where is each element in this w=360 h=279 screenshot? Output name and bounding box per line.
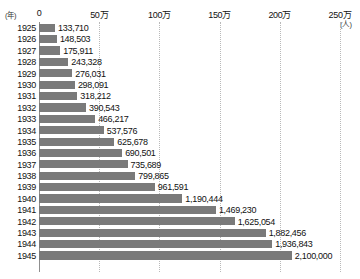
bar	[39, 206, 216, 214]
bar-row: 1925133,710	[0, 22, 360, 33]
plot-area: 1925133,7101926148,5031927175,9111928243…	[0, 22, 360, 274]
bar-value-label: 466,217	[98, 114, 128, 124]
bar-row: 1938799,865	[0, 170, 360, 181]
bar-value-label: 148,503	[60, 34, 90, 44]
bar-chart: (年) 050万100万150万200万250万 (人) 1925133,710…	[0, 0, 360, 279]
bar	[39, 69, 72, 77]
bar-value-label: 1,190,444	[185, 194, 222, 204]
x-tick-label-0: 0	[37, 8, 42, 18]
bar	[39, 58, 68, 66]
bar	[39, 240, 272, 248]
bar-row: 1933466,217	[0, 113, 360, 124]
bar-row: 19452,100,000	[0, 250, 360, 261]
bar-row-year: 1926	[2, 34, 36, 44]
bar-row-year: 1931	[2, 91, 36, 101]
bar-value-label: 276,031	[75, 69, 105, 79]
bar-row: 19421,625,054	[0, 216, 360, 227]
bar-row-year: 1944	[2, 239, 36, 249]
bar-row: 1927175,911	[0, 45, 360, 56]
year-axis-label: (年)	[5, 9, 16, 20]
bar	[39, 115, 95, 123]
bar	[39, 251, 292, 259]
bar-row: 1934537,576	[0, 125, 360, 136]
bar	[39, 81, 75, 89]
bar-row: 19411,469,230	[0, 204, 360, 215]
bar-row-year: 1934	[2, 126, 36, 136]
bar	[39, 183, 155, 191]
x-tick-label-500000: 50万	[90, 8, 108, 21]
bar-rows: 1925133,7101926148,5031927175,9111928243…	[0, 22, 360, 261]
bar	[39, 217, 235, 225]
bar-row-year: 1933	[2, 114, 36, 124]
bar-row: 1932390,543	[0, 102, 360, 113]
bar	[39, 160, 128, 168]
bar-row: 1936690,501	[0, 147, 360, 158]
bar-row-year: 1925	[2, 23, 36, 33]
bar-row-year: 1939	[2, 182, 36, 192]
bar	[39, 229, 266, 237]
bar	[39, 35, 57, 43]
bar-row-year: 1941	[2, 205, 36, 215]
bar-row: 1930298,091	[0, 79, 360, 90]
bar-value-label: 2,100,000	[295, 251, 332, 261]
bar	[39, 24, 55, 32]
bar-row: 1929276,031	[0, 68, 360, 79]
bar	[39, 194, 182, 202]
bar-row: 1928243,328	[0, 56, 360, 67]
bar-value-label: 735,689	[131, 160, 161, 170]
bar-value-label: 318,212	[80, 91, 110, 101]
x-tick-label-2000000: 200万	[268, 8, 291, 21]
bar-value-label: 1,469,230	[219, 205, 256, 215]
bar-row-year: 1945	[2, 251, 36, 261]
bar-row: 19441,936,843	[0, 238, 360, 249]
bar	[39, 172, 135, 180]
bar-row-year: 1927	[2, 46, 36, 56]
bar-value-label: 1,936,843	[275, 239, 312, 249]
bar-row-year: 1937	[2, 160, 36, 170]
bar-value-label: 243,328	[71, 57, 101, 67]
bar	[39, 92, 77, 100]
bar-row-year: 1928	[2, 57, 36, 67]
bar-value-label: 175,911	[63, 46, 93, 56]
bar-row-year: 1932	[2, 103, 36, 113]
bar-row-year: 1938	[2, 171, 36, 181]
bar-value-label: 390,543	[89, 103, 119, 113]
bar	[39, 138, 114, 146]
x-tick-label-1000000: 100万	[148, 8, 171, 21]
bar-row: 1939961,591	[0, 181, 360, 192]
bar-value-label: 799,865	[138, 171, 168, 181]
bar-row-year: 1929	[2, 69, 36, 79]
bar-value-label: 133,710	[58, 23, 88, 33]
bar-value-label: 537,576	[107, 126, 137, 136]
bar-row-year: 1936	[2, 148, 36, 158]
bar-row: 1926148,503	[0, 33, 360, 44]
bar	[39, 103, 86, 111]
bar-row-year: 1930	[2, 80, 36, 90]
bar-row-year: 1942	[2, 217, 36, 227]
bar-row: 1931318,212	[0, 90, 360, 101]
bar-value-label: 1,882,456	[269, 228, 306, 238]
bar-row-year: 1935	[2, 137, 36, 147]
bar-value-label: 298,091	[78, 80, 108, 90]
x-tick-label-1500000: 150万	[208, 8, 231, 21]
bar-row-year: 1940	[2, 194, 36, 204]
bar-row: 19431,882,456	[0, 227, 360, 238]
bar-row: 1937735,689	[0, 159, 360, 170]
bar-row: 1935625,678	[0, 136, 360, 147]
x-axis-header: (年) 050万100万150万200万250万 (人)	[0, 0, 360, 22]
bar-value-label: 690,501	[125, 148, 155, 158]
bar	[39, 46, 60, 54]
bar-value-label: 1,625,054	[238, 217, 275, 227]
bar-row-year: 1943	[2, 228, 36, 238]
bar-value-label: 961,591	[158, 182, 188, 192]
bar	[39, 149, 122, 157]
bar-row: 19401,190,444	[0, 193, 360, 204]
bar-value-label: 625,678	[117, 137, 147, 147]
bar	[39, 126, 104, 134]
